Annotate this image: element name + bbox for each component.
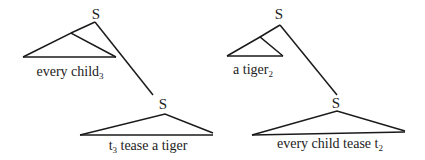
diagram-svg: S every child3 S t3 tease a tiger S a ti… xyxy=(0,0,425,160)
left-tree: S every child3 S t3 tease a tiger xyxy=(23,6,213,155)
left-upper-triangle-sides xyxy=(23,33,116,57)
right-moved-phrase: a tiger2 xyxy=(233,62,273,79)
left-lower-s-label: S xyxy=(159,96,167,112)
right-root-s-label: S xyxy=(275,6,283,22)
right-lower-triangle-sides xyxy=(252,111,405,135)
left-root-to-lower-s-edge xyxy=(95,22,153,95)
right-lower-s-label: S xyxy=(332,95,340,111)
syntax-tree-diagram: S every child3 S t3 tease a tiger S a ti… xyxy=(0,0,425,160)
right-root-to-branch-edge xyxy=(260,25,280,37)
right-root-to-lower-s-edge xyxy=(280,25,337,95)
left-lower-phrase: t3 tease a tiger xyxy=(109,138,188,155)
left-lower-triangle-sides xyxy=(80,114,213,135)
left-root-s-label: S xyxy=(92,6,100,22)
left-moved-phrase: every child3 xyxy=(36,64,104,81)
right-lower-triangle-base xyxy=(252,132,405,135)
right-lower-phrase: every child tease t2 xyxy=(277,136,383,153)
left-root-to-branch-edge xyxy=(71,22,95,33)
right-tree: S a tiger2 S every child tease t2 xyxy=(227,6,405,153)
right-upper-triangle-sides xyxy=(227,37,283,56)
